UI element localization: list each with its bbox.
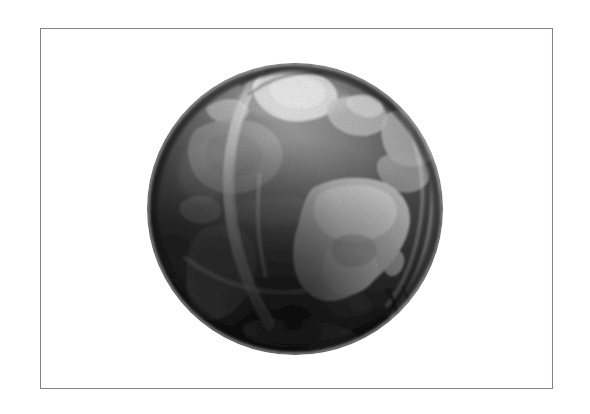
page-canvas [0, 0, 590, 414]
figure-frame [40, 28, 553, 389]
globe-container [144, 61, 446, 359]
earth-globe-image [144, 61, 446, 359]
